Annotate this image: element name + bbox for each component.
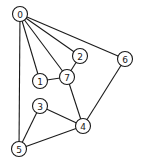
node-0: 0 xyxy=(13,7,28,22)
node-label: 1 xyxy=(37,77,43,87)
graph-canvas: 01234567 xyxy=(0,0,142,166)
node-label: 2 xyxy=(77,52,83,62)
node-label: 4 xyxy=(80,122,86,132)
node-label: 3 xyxy=(37,102,43,112)
node-3: 3 xyxy=(33,99,48,114)
node-label: 0 xyxy=(17,10,23,20)
node-5: 5 xyxy=(12,142,27,157)
node-6: 6 xyxy=(118,52,133,67)
edge-6-4 xyxy=(83,59,125,126)
node-label: 5 xyxy=(16,145,22,155)
edge-0-7 xyxy=(20,14,67,77)
nodes-layer: 01234567 xyxy=(12,7,133,157)
node-7: 7 xyxy=(60,70,75,85)
node-2: 2 xyxy=(73,49,88,64)
edge-0-6 xyxy=(20,14,125,59)
node-4: 4 xyxy=(76,119,91,134)
edge-0-2 xyxy=(20,14,80,56)
node-1: 1 xyxy=(33,74,48,89)
node-label: 6 xyxy=(122,55,128,65)
edge-0-5 xyxy=(19,14,20,149)
edge-0-1 xyxy=(20,14,40,81)
graph-diagram: 01234567 xyxy=(0,0,142,166)
node-label: 7 xyxy=(64,73,70,83)
